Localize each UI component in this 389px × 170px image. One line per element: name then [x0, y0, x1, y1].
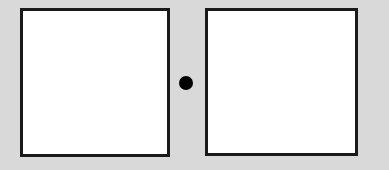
right-square	[205, 8, 358, 156]
left-square	[20, 8, 170, 157]
center-dot	[179, 76, 193, 90]
